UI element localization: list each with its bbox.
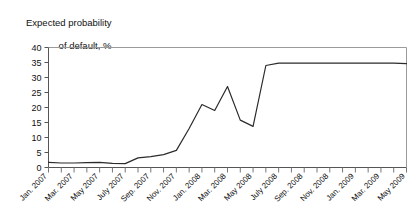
- y-axis-tick-label: 0: [36, 163, 41, 173]
- y-axis-tick-label: 35: [31, 58, 41, 68]
- y-axis-tick-label: 15: [31, 118, 41, 128]
- y-axis-labels: 0510152025303540: [31, 43, 41, 173]
- x-axis-tick-label: May 2009: [376, 171, 408, 203]
- line-chart-svg: 0510152025303540 Jan. 2007Mar. 2007May 2…: [0, 0, 419, 220]
- chart-container: Expected probability of default, % 05101…: [0, 0, 419, 220]
- y-axis-tick-label: 20: [31, 103, 41, 113]
- y-axis-tick-label: 30: [31, 73, 41, 83]
- x-axis-labels: Jan. 2007Mar. 2007May 2007July 2007Sep. …: [18, 171, 408, 204]
- y-axis-tick-label: 10: [31, 133, 41, 143]
- x-axis-tick-label: May 2008: [222, 171, 254, 203]
- x-axis-ticks: [49, 168, 407, 173]
- y-axis-tick-label: 5: [36, 148, 41, 158]
- y-axis-ticks: [45, 48, 49, 168]
- plot-area: 0510152025303540 Jan. 2007Mar. 2007May 2…: [0, 0, 419, 220]
- plot-frame: [49, 48, 407, 168]
- series-line: [49, 63, 407, 164]
- data-series-line: [49, 63, 407, 164]
- y-axis-tick-label: 40: [31, 43, 41, 53]
- x-axis-tick-label: May 2007: [69, 171, 101, 203]
- y-axis-tick-label: 25: [31, 88, 41, 98]
